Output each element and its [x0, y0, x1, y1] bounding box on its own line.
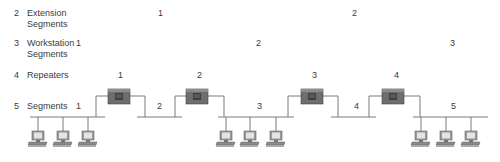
workstation-icon [53, 131, 72, 147]
workstation-icon [436, 131, 455, 147]
workstation-icon [461, 131, 480, 147]
workstation-icon [216, 131, 235, 147]
repeater-icon [301, 89, 323, 104]
network-diagram [0, 0, 500, 162]
repeater-icon [186, 89, 208, 104]
repeater-icon [382, 89, 404, 104]
repeater-icon [108, 89, 130, 104]
workstation-icon [78, 131, 97, 147]
workstation-icon [266, 131, 285, 147]
workstation-icon [411, 131, 430, 147]
workstation-icon [28, 131, 47, 147]
workstation-icon [240, 131, 259, 147]
